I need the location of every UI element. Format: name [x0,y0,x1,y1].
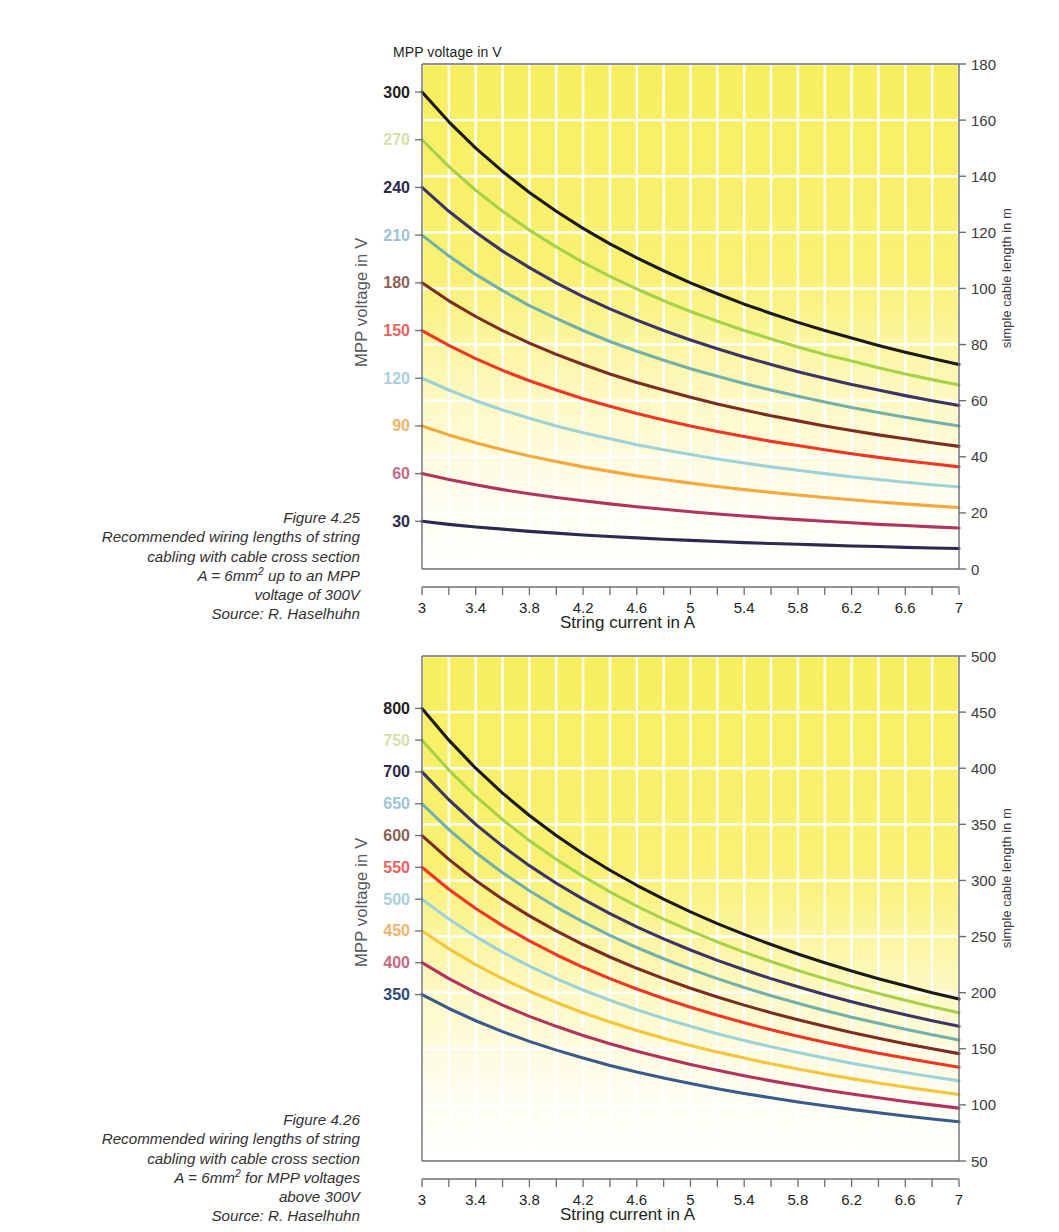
y2-tick-label: 500 [971,648,996,665]
y-axis-series-label-150: 150 [383,322,410,339]
y2-tick-label: 100 [971,280,996,297]
y-axis-series-label-270: 270 [383,131,410,148]
caption2-line-0: Figure 4.26 [8,1110,360,1129]
caption1-line-3: A = 6mm2 up to an MPP [8,566,360,585]
caption2-line-1: Recommended wiring lengths of string [8,1129,360,1148]
y2-tick-label: 50 [971,1153,988,1170]
x-tick-label: 7 [955,1191,963,1208]
chart1-top-label: MPP voltage in V [393,44,502,60]
y-axis-series-label-800: 800 [383,700,410,717]
y2-tick-label: 200 [971,984,996,1001]
y-axis-series-label-300: 300 [383,84,410,101]
y2-tick-label: 300 [971,872,996,889]
y2-tick-label: 40 [971,448,988,465]
y2-tick-label: 120 [971,224,996,241]
y2-tick-label: 180 [971,56,996,73]
y-axis-series-label-60: 60 [392,465,410,482]
y2-tick-label: 400 [971,760,996,777]
y-axis-series-label-120: 120 [383,370,410,387]
chart2-x-axis-title: String current in A [560,1205,695,1225]
caption1-line-0: Figure 4.25 [8,508,360,527]
y-axis-series-label-240: 240 [383,179,410,196]
y-axis-series-label-500: 500 [383,891,410,908]
y-axis-series-label-700: 700 [383,763,410,780]
y2-tick-label: 150 [971,1040,996,1057]
y-axis-series-label-550: 550 [383,859,410,876]
x-tick-label: 6.2 [841,1191,862,1208]
y2-tick-label: 60 [971,392,988,409]
y2-tick-label: 0 [971,561,979,578]
y-axis-series-label-210: 210 [383,227,410,244]
caption1-line-1: Recommended wiring lengths of string [8,527,360,546]
figure-page: MPP voltage in V MPP voltage in V simple… [0,0,1059,1232]
x-tick-label: 3.8 [519,1191,540,1208]
y2-tick-label: 20 [971,504,988,521]
chart2-y-axis-title: MPP voltage in V [352,838,371,967]
y-axis-series-label-750: 750 [383,732,410,749]
y-axis-series-label-90: 90 [392,417,410,434]
chart1-y2-axis-title: simple cable length in m [1000,208,1014,348]
chart1-y-axis-title: MPP voltage in V [352,238,371,367]
chart2-y2-axis-title: simple cable length in m [1000,808,1014,948]
y-axis-series-label-30: 30 [392,513,410,530]
x-tick-label: 6.6 [895,1191,916,1208]
x-tick-label: 5.4 [734,1191,755,1208]
x-tick-label: 3 [418,1191,426,1208]
caption2-line-3: A = 6mm2 for MPP voltages [8,1168,360,1187]
caption1-line-2: cabling with cable cross section [8,547,360,566]
y-axis-series-label-180: 180 [383,274,410,291]
y2-tick-label: 140 [971,168,996,185]
y-axis-series-label-600: 600 [383,827,410,844]
x-tick-label: 3.4 [465,1191,486,1208]
y-axis-series-label-650: 650 [383,795,410,812]
y2-tick-label: 160 [971,112,996,129]
y-axis-series-label-400: 400 [383,954,410,971]
y2-tick-label: 100 [971,1096,996,1113]
y2-tick-label: 350 [971,816,996,833]
caption2-line-5: Source: R. Haselhuhn [8,1206,360,1225]
caption-figure-4-26: Figure 4.26 Recommended wiring lengths o… [8,1110,360,1226]
y-axis-series-label-450: 450 [383,922,410,939]
caption2-line-4: above 300V [8,1187,360,1206]
y2-tick-label: 250 [971,928,996,945]
y-axis-series-label-350: 350 [383,986,410,1003]
y2-tick-label: 80 [971,336,988,353]
caption2-line-2: cabling with cable cross section [8,1149,360,1168]
x-tick-label: 5.8 [787,1191,808,1208]
y2-tick-label: 450 [971,704,996,721]
